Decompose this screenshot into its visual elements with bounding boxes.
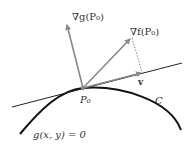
projection-dotted-line (132, 38, 142, 72)
label-v: v (137, 77, 144, 87)
label-p0: P₀ (79, 94, 91, 105)
label-constraint: g(x, y) = 0 (33, 129, 87, 140)
label-curve-c: C (155, 95, 163, 106)
grad-g-vector (67, 25, 83, 88)
v-vector (83, 73, 141, 88)
grad-f-vector (83, 39, 130, 88)
label-grad-f: ∇f(P₀) (130, 26, 159, 37)
point-p0 (81, 86, 85, 90)
label-grad-g: ∇g(P₀) (72, 11, 104, 22)
lagrange-multiplier-diagram: ∇g(P₀) ∇f(P₀) v P₀ C g(x, y) = 0 (0, 0, 189, 153)
